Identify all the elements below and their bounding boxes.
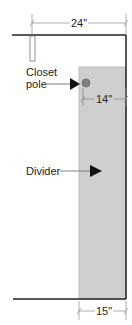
dimension-label-14: 14" [95, 93, 113, 105]
closet-pole-label-line2: pole [26, 78, 47, 90]
divider-label: Divider [26, 165, 60, 177]
dimension-label-15: 15" [95, 305, 113, 317]
closet-pole-bracket [30, 36, 35, 61]
closet-pole-label-line1: Closet [26, 66, 57, 78]
closet-diagram [0, 0, 132, 325]
dimension-label-24: 24" [70, 17, 88, 29]
closet-pole-circle [82, 79, 90, 87]
